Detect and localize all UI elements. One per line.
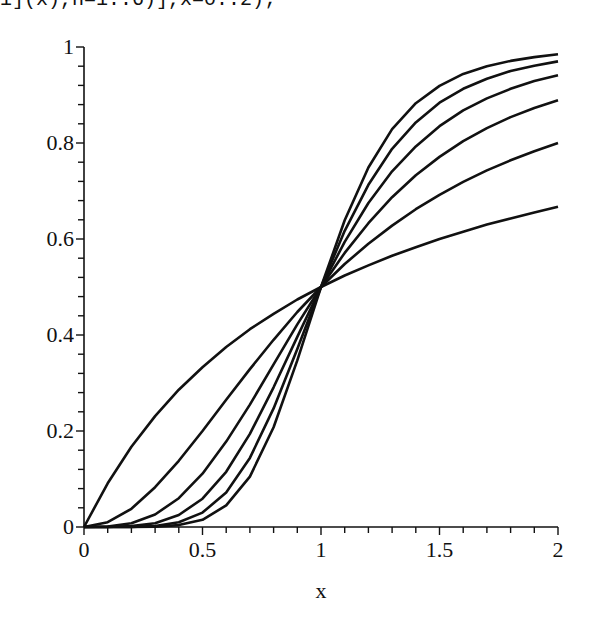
y-tick-label: 0 [63,514,74,539]
curve-n-1 [84,207,558,527]
curves [84,54,558,527]
y-tick-label: 0.4 [47,322,75,347]
curve-n-6 [84,54,558,527]
curve-n-4 [84,75,558,527]
curve-n-2 [84,143,558,527]
x-tick-label: 1.5 [426,537,454,562]
y-tick-label: 0.6 [47,226,75,251]
line-chart: 00.511.5200.20.40.60.81 x [0,0,591,620]
x-tick-label: 1 [316,537,327,562]
axes: 00.511.5200.20.40.60.81 [47,34,564,562]
x-axis-label: x [316,578,327,603]
curve-n-3 [84,100,558,527]
y-tick-label: 0.8 [47,130,75,155]
y-tick-label: 0.2 [47,418,75,443]
x-tick-label: 2 [553,537,564,562]
x-tick-label: 0.5 [189,537,217,562]
x-tick-label: 0 [79,537,90,562]
curve-n-5 [84,61,558,527]
y-tick-label: 1 [63,34,74,59]
